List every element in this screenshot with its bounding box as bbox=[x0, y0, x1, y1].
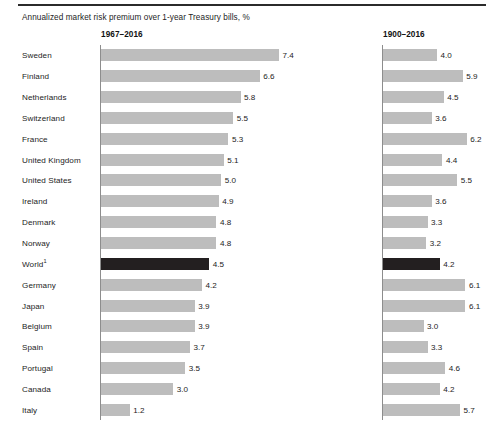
category-label: Sweden bbox=[22, 51, 52, 60]
bar-row: Finland6.65.9 bbox=[0, 66, 498, 87]
bar-left: 7.4 bbox=[101, 49, 279, 61]
bar-value-label: 3.0 bbox=[177, 384, 188, 393]
bar-row: Italy1.25.7 bbox=[0, 399, 498, 420]
bar-row: Canada3.04.2 bbox=[0, 379, 498, 400]
category-label: Portugal bbox=[22, 364, 53, 373]
bar-value-label: 6.1 bbox=[469, 301, 480, 310]
bar-fill bbox=[383, 216, 428, 228]
bar-fill bbox=[383, 300, 465, 312]
bar-fill bbox=[101, 112, 233, 124]
bar-left: 6.6 bbox=[101, 70, 260, 82]
bar-value-label: 3.5 bbox=[189, 364, 200, 373]
bar-left: 5.1 bbox=[101, 154, 224, 166]
bar-value-label: 5.5 bbox=[237, 113, 248, 122]
bar-left: 3.9 bbox=[101, 300, 195, 312]
bar-fill bbox=[383, 320, 424, 332]
bar-fill bbox=[101, 383, 173, 395]
bar-fill bbox=[383, 195, 432, 207]
bar-fill bbox=[101, 154, 224, 166]
bar-right: 3.6 bbox=[383, 112, 432, 124]
bar-value-label: 4.2 bbox=[443, 259, 454, 268]
bar-fill bbox=[383, 174, 457, 186]
bar-right: 3.3 bbox=[383, 216, 428, 228]
bar-value-label: 5.3 bbox=[232, 134, 243, 143]
bar-row: Norway4.83.2 bbox=[0, 233, 498, 254]
category-label: Norway bbox=[22, 239, 50, 248]
bar-value-label: 3.6 bbox=[435, 113, 446, 122]
category-label: France bbox=[22, 134, 48, 143]
bar-left: 4.8 bbox=[101, 216, 216, 228]
bar-highlight bbox=[383, 258, 440, 270]
bar-row: Germany4.26.1 bbox=[0, 274, 498, 295]
page-title: Annualized market risk premium over 1-ye… bbox=[22, 13, 250, 22]
category-label: Japan bbox=[22, 301, 44, 310]
bar-value-label: 3.3 bbox=[431, 343, 442, 352]
bar-value-label: 4.5 bbox=[213, 259, 224, 268]
bar-fill bbox=[383, 112, 432, 124]
bar-value-label: 4.2 bbox=[206, 280, 217, 289]
bar-value-label: 4.9 bbox=[222, 197, 233, 206]
bar-fill bbox=[383, 70, 463, 82]
bar-row: Denmark4.83.3 bbox=[0, 212, 498, 233]
bar-fill bbox=[383, 154, 442, 166]
bar-right: 3.0 bbox=[383, 320, 424, 332]
bar-right: 5.9 bbox=[383, 70, 463, 82]
bar-left: 4.5 bbox=[101, 258, 209, 270]
bar-value-label: 5.8 bbox=[244, 93, 255, 102]
bar-left: 5.8 bbox=[101, 91, 241, 103]
bar-fill bbox=[383, 383, 440, 395]
bar-row: Portugal3.54.6 bbox=[0, 358, 498, 379]
bar-row: World14.54.2 bbox=[0, 253, 498, 274]
bar-right: 4.2 bbox=[383, 383, 440, 395]
category-label: United Kingdom bbox=[22, 155, 81, 164]
bar-value-label: 5.9 bbox=[466, 72, 477, 81]
bar-fill bbox=[101, 279, 202, 291]
category-label: Switzerland bbox=[22, 113, 65, 122]
bar-right: 3.3 bbox=[383, 341, 428, 353]
bar-row: Netherlands5.84.5 bbox=[0, 87, 498, 108]
bar-left: 4.2 bbox=[101, 279, 202, 291]
bar-row: Japan3.96.1 bbox=[0, 295, 498, 316]
bar-right: 5.7 bbox=[383, 404, 460, 416]
bar-value-label: 6.1 bbox=[469, 280, 480, 289]
bar-left: 5.0 bbox=[101, 174, 221, 186]
bar-value-label: 3.9 bbox=[198, 301, 209, 310]
top-rule-divider bbox=[18, 4, 486, 6]
bar-fill bbox=[383, 404, 460, 416]
bar-fill bbox=[383, 91, 444, 103]
bar-row: France5.36.2 bbox=[0, 128, 498, 149]
bar-value-label: 3.3 bbox=[431, 218, 442, 227]
bar-highlight bbox=[101, 258, 209, 270]
bar-row: Switzerland5.53.6 bbox=[0, 108, 498, 129]
bar-value-label: 5.1 bbox=[227, 155, 238, 164]
bar-row: Ireland4.93.6 bbox=[0, 191, 498, 212]
category-label: World1 bbox=[22, 259, 47, 268]
bar-fill bbox=[383, 49, 437, 61]
bar-fill bbox=[101, 70, 260, 82]
footnote-marker: 1 bbox=[43, 258, 46, 264]
bar-fill bbox=[101, 91, 241, 103]
category-label: Germany bbox=[22, 280, 56, 289]
bar-fill bbox=[101, 49, 279, 61]
bar-value-label: 4.4 bbox=[446, 155, 457, 164]
category-label: Ireland bbox=[22, 197, 47, 206]
bar-left: 1.2 bbox=[101, 404, 130, 416]
bar-left: 5.3 bbox=[101, 133, 228, 145]
bar-fill bbox=[383, 362, 445, 374]
bar-left: 4.9 bbox=[101, 195, 219, 207]
category-label: Spain bbox=[22, 343, 43, 352]
bar-left: 4.8 bbox=[101, 237, 216, 249]
bar-row: United Kingdom5.14.4 bbox=[0, 149, 498, 170]
bar-fill bbox=[101, 237, 216, 249]
bar-left: 3.7 bbox=[101, 341, 190, 353]
bar-value-label: 4.8 bbox=[220, 239, 231, 248]
bar-value-label: 3.2 bbox=[430, 239, 441, 248]
bar-left: 3.9 bbox=[101, 320, 195, 332]
category-label: Netherlands bbox=[22, 93, 67, 102]
panel-header-1900-2016: 1900–2016 bbox=[383, 30, 425, 39]
bar-value-label: 3.9 bbox=[198, 322, 209, 331]
category-label: Belgium bbox=[22, 322, 52, 331]
bar-right: 3.2 bbox=[383, 237, 426, 249]
bar-left: 5.5 bbox=[101, 112, 233, 124]
bar-value-label: 3.7 bbox=[194, 343, 205, 352]
